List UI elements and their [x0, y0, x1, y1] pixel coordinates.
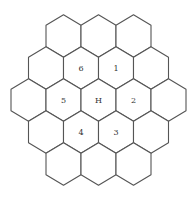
hex-label: 6: [78, 64, 83, 73]
hex-label: 1: [113, 64, 118, 73]
hex-label: 5: [61, 96, 66, 105]
hex-label: H: [95, 96, 102, 105]
hex-label: 4: [78, 128, 83, 137]
hex-grid: 615H243: [0, 0, 195, 200]
hex-label: 2: [131, 96, 136, 105]
hex-label: 3: [113, 128, 118, 137]
